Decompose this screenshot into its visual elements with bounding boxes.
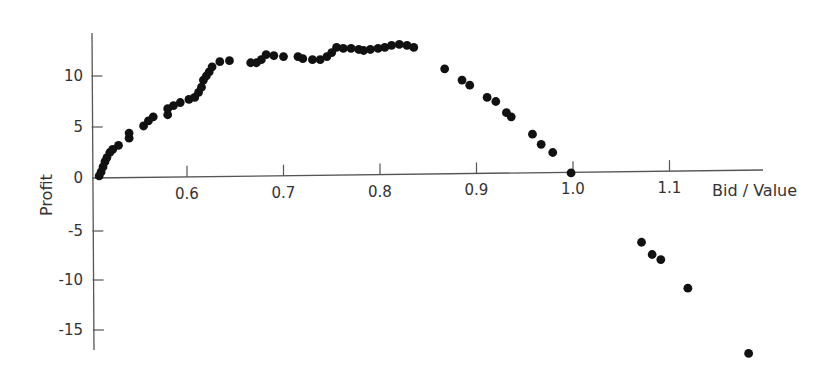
data-point (537, 140, 546, 149)
y-tick-label: -15 (59, 321, 84, 339)
x-tick-label: 1.0 (561, 180, 585, 198)
data-point (656, 255, 665, 264)
y-tick-label: 0 (73, 169, 83, 187)
x-axis-title: Bid / Value (712, 181, 797, 200)
x-tick-label: 0.9 (465, 181, 489, 199)
x-tick-label: 1.1 (658, 179, 682, 197)
data-point (308, 55, 317, 64)
data-point (225, 56, 234, 65)
tick-labels: 0.60.70.80.91.01.1-15-10-50510 (59, 67, 682, 339)
scatter-chart: 0.60.70.80.91.01.1-15-10-50510 Bid / Val… (0, 0, 833, 372)
tick-marks (91, 76, 669, 330)
y-tick-label: 10 (64, 67, 83, 85)
data-point (339, 44, 348, 53)
data-point (548, 148, 557, 157)
y-tick-label: -5 (68, 222, 83, 240)
data-point (465, 81, 474, 90)
data-point (387, 41, 396, 50)
x-tick-label: 0.8 (368, 183, 392, 201)
data-point (395, 40, 404, 49)
data-point (648, 250, 657, 259)
y-tick-label: -10 (59, 271, 84, 289)
data-point (149, 112, 158, 121)
data-point (567, 169, 576, 178)
x-tick-label: 0.7 (272, 184, 296, 202)
y-tick-label: 5 (73, 118, 83, 136)
data-point (507, 112, 516, 121)
data-point (491, 97, 500, 106)
data-point (125, 129, 134, 138)
data-point (215, 57, 224, 66)
data-point (269, 51, 278, 60)
x-axis-line (92, 170, 763, 178)
data-point (458, 76, 467, 85)
data-point (208, 62, 217, 71)
data-point (528, 130, 537, 139)
data-point (114, 141, 123, 150)
data-point (744, 349, 753, 358)
data-point (366, 45, 375, 54)
data-point (637, 238, 646, 247)
data-point (409, 43, 418, 52)
data-point (298, 54, 307, 63)
data-point (279, 52, 288, 61)
y-axis-title: Profit (37, 174, 56, 216)
data-point (262, 50, 271, 59)
y-axis-line (92, 33, 94, 350)
data-point (483, 93, 492, 102)
data-point (683, 284, 692, 293)
data-point (440, 64, 449, 73)
data-point (347, 44, 356, 53)
data-point (176, 98, 185, 107)
x-tick-label: 0.6 (175, 185, 199, 203)
